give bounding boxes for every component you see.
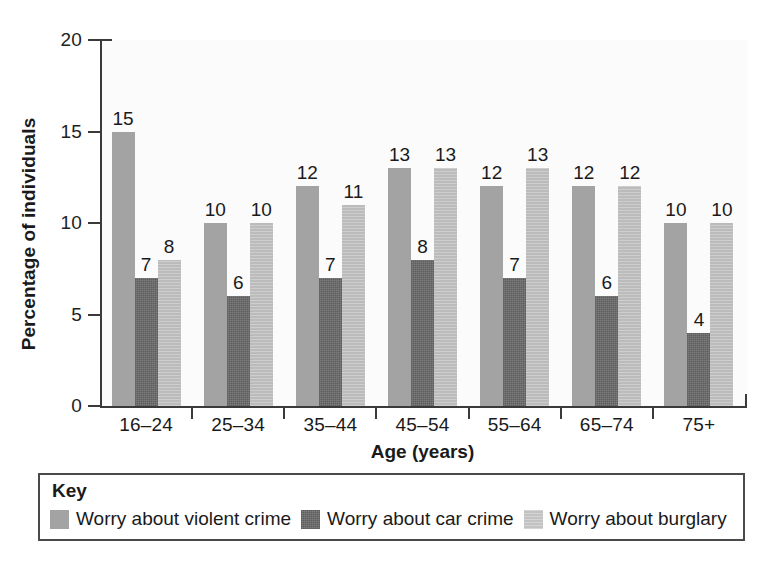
bar <box>572 186 595 406</box>
x-axis-tick <box>652 408 654 419</box>
bar <box>595 296 618 406</box>
x-axis-tick <box>191 408 193 419</box>
x-axis-tick <box>375 408 377 419</box>
bar-value-label: 15 <box>112 109 133 128</box>
bar <box>710 223 733 406</box>
legend-item-label: Worry about car crime <box>327 508 514 530</box>
legend-box: Key Worry about violent crimeWorry about… <box>38 473 745 541</box>
legend-item: Worry about violent crime <box>50 508 291 530</box>
legend-items: Worry about violent crimeWorry about car… <box>50 508 737 530</box>
x-axis-tick-label: 55–64 <box>488 414 542 436</box>
bar-value-label: 12 <box>297 163 318 182</box>
x-axis-tick-label: 65–74 <box>580 414 634 436</box>
legend-swatch-violent <box>50 510 69 529</box>
x-axis-tick-label: 16–24 <box>119 414 173 436</box>
bar <box>480 186 503 406</box>
bar-value-label: 8 <box>164 237 175 256</box>
bar <box>296 186 319 406</box>
bar-value-label: 7 <box>509 255 520 274</box>
bar-value-label: 13 <box>435 145 456 164</box>
x-axis-tick <box>560 408 562 419</box>
bar-value-label: 10 <box>205 200 226 219</box>
bar <box>664 223 687 406</box>
axis-frame-right-stub <box>745 394 747 408</box>
bar-value-label: 7 <box>325 255 336 274</box>
bar <box>204 223 227 406</box>
bar <box>618 186 641 406</box>
y-axis-tick-label: 0 <box>38 395 82 417</box>
bar-value-label: 10 <box>251 200 272 219</box>
bar-value-label: 12 <box>619 163 640 182</box>
x-axis-title: Age (years) <box>100 441 745 463</box>
bar <box>250 223 273 406</box>
legend-item: Worry about burglary <box>524 508 727 530</box>
legend-title: Key <box>52 480 87 502</box>
y-axis-tick <box>88 222 100 224</box>
x-axis-tick-label: 25–34 <box>211 414 265 436</box>
bar-value-label: 6 <box>233 273 244 292</box>
bar-value-label: 13 <box>389 145 410 164</box>
x-axis-tick-label: 75+ <box>683 414 716 436</box>
bar <box>526 168 549 406</box>
x-axis-tick-label: 35–44 <box>303 414 357 436</box>
bar-value-label: 7 <box>141 255 152 274</box>
bar <box>158 260 181 406</box>
legend-item-label: Worry about violent crime <box>76 508 291 530</box>
axis-frame-top-stub <box>100 39 112 41</box>
bar <box>503 278 526 406</box>
legend-swatch-car <box>301 510 320 529</box>
y-axis-title: Percentage of individuals <box>18 74 40 394</box>
bar <box>434 168 457 406</box>
legend-swatch-burglary <box>524 510 543 529</box>
bar-value-label: 12 <box>573 163 594 182</box>
x-axis-tick <box>468 408 470 419</box>
bar <box>112 132 135 407</box>
bar <box>342 205 365 406</box>
bar <box>687 333 710 406</box>
y-axis-tick <box>88 39 100 41</box>
bar <box>227 296 250 406</box>
bar <box>388 168 411 406</box>
bar-value-label: 11 <box>343 182 363 201</box>
bar-value-label: 10 <box>711 200 732 219</box>
y-axis-tick <box>88 405 100 407</box>
y-axis-tick-label: 10 <box>38 212 82 234</box>
bar-value-label: 4 <box>694 310 705 329</box>
bar-value-label: 10 <box>665 200 686 219</box>
bar <box>135 278 158 406</box>
y-axis-tick-label: 20 <box>38 29 82 51</box>
legend-item: Worry about car crime <box>301 508 514 530</box>
x-axis-tick <box>283 408 285 419</box>
bar <box>319 278 342 406</box>
x-axis-tick-label: 45–54 <box>396 414 450 436</box>
bar-chart-figure: 05101520 Percentage of individuals Age (… <box>0 0 777 565</box>
bar-value-label: 8 <box>417 237 428 256</box>
bar <box>411 260 434 406</box>
bar-value-label: 13 <box>527 145 548 164</box>
y-axis-tick <box>88 131 100 133</box>
bar-value-label: 12 <box>481 163 502 182</box>
legend-item-label: Worry about burglary <box>550 508 727 530</box>
bar-value-label: 6 <box>601 273 612 292</box>
y-axis-tick-label: 5 <box>38 304 82 326</box>
y-axis-tick <box>88 314 100 316</box>
y-axis-tick-label: 15 <box>38 121 82 143</box>
